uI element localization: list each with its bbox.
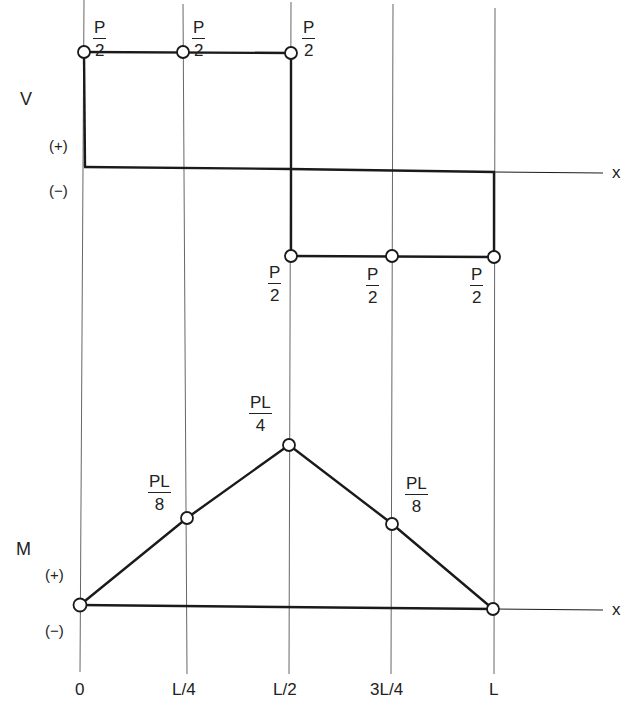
shear-label-bottom-1: P 2	[366, 266, 379, 306]
fraction-numerator: P	[366, 266, 379, 286]
fraction-denominator: 8	[155, 493, 164, 513]
grid-line-l	[494, 8, 495, 674]
fraction-denominator: 4	[256, 414, 265, 434]
fraction-numerator: PL	[249, 394, 272, 414]
fraction-denominator: 2	[95, 39, 104, 59]
moment-points	[74, 439, 500, 615]
vertical-grid-lines	[80, 0, 495, 674]
diagram-canvas	[0, 0, 638, 714]
fraction-denominator: 2	[472, 286, 481, 306]
fraction-denominator: 8	[412, 495, 421, 515]
shear-label-top-2: P 2	[302, 19, 315, 59]
fraction-denominator: 2	[194, 39, 203, 59]
x-tick-l4: L/4	[172, 681, 196, 698]
fraction-numerator: P	[268, 264, 281, 284]
moment-minus-label: (−)	[45, 623, 64, 638]
x-tick-0: 0	[75, 681, 84, 698]
shear-axis-label: V	[20, 90, 32, 108]
fraction-numerator: P	[470, 266, 483, 286]
fraction-numerator: P	[93, 19, 106, 39]
x-tick-l2: L/2	[273, 681, 297, 698]
moment-point	[386, 518, 398, 530]
shear-point	[285, 47, 297, 59]
moment-label-left: PL 8	[148, 473, 171, 513]
shear-label-top-1: P 2	[192, 19, 205, 59]
moment-point	[74, 599, 87, 612]
shear-label-bottom-0: P 2	[268, 264, 281, 304]
moment-point	[487, 603, 499, 615]
shear-diagram	[84, 52, 603, 257]
fraction-numerator: PL	[148, 473, 171, 493]
shear-point	[177, 46, 189, 58]
shear-x-axis-right	[290, 169, 495, 172]
shear-point	[78, 46, 90, 58]
fraction-numerator: P	[192, 19, 205, 39]
shear-points	[78, 46, 500, 263]
fraction-denominator: 2	[270, 284, 279, 304]
grid-line-3l4	[391, 4, 393, 674]
moment-label-right: PL 8	[405, 475, 428, 515]
moment-curve	[80, 445, 493, 609]
moment-point	[181, 512, 193, 524]
shear-x-axis	[84, 167, 290, 169]
shear-point	[386, 250, 398, 262]
shear-x-label: x	[612, 164, 621, 181]
x-tick-3l4: 3L/4	[370, 681, 403, 698]
moment-label-peak: PL 4	[249, 394, 272, 434]
shear-plus-label: (+)	[49, 138, 68, 153]
moment-x-label: x	[612, 601, 621, 618]
moment-point	[283, 439, 295, 451]
x-tick-l: L	[489, 681, 498, 698]
shear-minus-label: (−)	[49, 183, 68, 198]
moment-x-axis-extension	[493, 609, 603, 610]
moment-axis-label: M	[16, 540, 31, 558]
shear-label-bottom-2: P 2	[470, 266, 483, 306]
fraction-numerator: PL	[405, 475, 428, 495]
moment-diagram	[80, 445, 603, 610]
shear-label-top-0: P 2	[93, 19, 106, 59]
shear-point	[285, 250, 297, 262]
shear-point	[488, 251, 500, 263]
shear-x-axis-extension	[495, 172, 603, 173]
grid-line-l4	[183, 4, 187, 674]
fraction-numerator: P	[302, 19, 315, 39]
shear-left-vertical	[84, 52, 85, 167]
fraction-denominator: 2	[368, 286, 377, 306]
moment-x-axis	[80, 605, 493, 609]
moment-plus-label: (+)	[45, 567, 64, 582]
fraction-denominator: 2	[304, 39, 313, 59]
